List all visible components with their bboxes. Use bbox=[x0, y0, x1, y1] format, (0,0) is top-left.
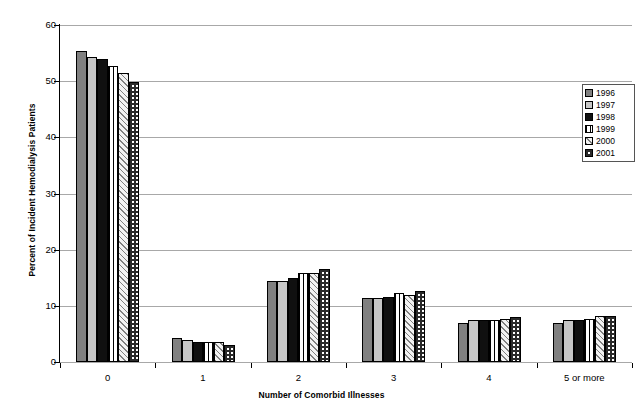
bar-1998-cat-4[interactable] bbox=[479, 320, 490, 362]
legend-item-2000[interactable]: 2000 bbox=[585, 135, 632, 147]
legend-item-1996[interactable]: 1996 bbox=[585, 87, 632, 99]
x-axis-tick-mark bbox=[441, 363, 442, 368]
y-axis-tick-label: 60 bbox=[32, 20, 56, 30]
x-axis-category-label: 2 bbox=[251, 372, 346, 383]
legend-label: 2000 bbox=[596, 137, 615, 146]
bar-group bbox=[458, 25, 521, 362]
x-axis-tick-mark bbox=[251, 363, 252, 368]
legend-label: 2001 bbox=[596, 149, 615, 158]
bar-1998-cat-1[interactable] bbox=[193, 342, 204, 362]
bar-1996-cat-0[interactable] bbox=[76, 51, 87, 362]
bar-2001-cat-0[interactable] bbox=[129, 82, 140, 362]
bar-1996-cat-5[interactable] bbox=[553, 323, 564, 362]
x-axis-category-label: 3 bbox=[346, 372, 441, 383]
legend-item-2001[interactable]: 2001 bbox=[585, 147, 632, 159]
y-axis-tick-mark bbox=[54, 81, 60, 82]
legend-swatch-icon bbox=[585, 137, 593, 145]
bar-1998-cat-2[interactable] bbox=[288, 278, 299, 362]
legend-label: 1998 bbox=[596, 113, 615, 122]
y-axis-tick-mark bbox=[54, 25, 60, 26]
bar-2001-cat-4[interactable] bbox=[510, 317, 521, 362]
bar-1997-cat-4[interactable] bbox=[468, 320, 479, 362]
bar-2000-cat-4[interactable] bbox=[500, 319, 511, 362]
gridline bbox=[60, 306, 632, 307]
bar-1999-cat-0[interactable] bbox=[108, 66, 119, 362]
bar-2000-cat-0[interactable] bbox=[118, 73, 129, 362]
bar-2001-cat-5[interactable] bbox=[605, 316, 616, 362]
y-axis-tick-label: 0 bbox=[32, 357, 56, 367]
gridline bbox=[60, 250, 632, 251]
legend-swatch-icon bbox=[585, 89, 593, 97]
bar-1998-cat-3[interactable] bbox=[383, 297, 394, 362]
plot-area bbox=[60, 25, 632, 362]
y-axis-tick-label: 20 bbox=[32, 245, 56, 255]
bar-1997-cat-3[interactable] bbox=[373, 298, 384, 362]
bar-2000-cat-2[interactable] bbox=[309, 273, 320, 362]
x-axis-category-label: 1 bbox=[155, 372, 250, 383]
legend-label: 1997 bbox=[596, 101, 615, 110]
bar-2001-cat-3[interactable] bbox=[415, 291, 426, 362]
x-axis-tick-mark bbox=[537, 363, 538, 368]
y-axis-tick-mark bbox=[54, 250, 60, 251]
x-axis-title: Number of Comorbid Illnesses bbox=[0, 390, 643, 400]
y-axis-tick-label: 40 bbox=[32, 132, 56, 142]
y-axis-tick-mark bbox=[54, 306, 60, 307]
bar-1998-cat-0[interactable] bbox=[97, 59, 108, 362]
y-axis-tick-labels: 0102030405060 bbox=[22, 0, 56, 411]
legend-swatch-icon bbox=[585, 125, 593, 133]
x-axis-tick-mark bbox=[632, 363, 633, 368]
gridline bbox=[60, 137, 632, 138]
legend-label: 1999 bbox=[596, 125, 615, 134]
x-axis-tick-mark bbox=[60, 363, 61, 368]
legend-swatch-icon bbox=[585, 113, 593, 121]
bar-group bbox=[76, 25, 139, 362]
bar-1999-cat-1[interactable] bbox=[203, 342, 214, 362]
bar-1996-cat-1[interactable] bbox=[172, 338, 183, 362]
bar-2001-cat-2[interactable] bbox=[319, 269, 330, 362]
bar-1996-cat-4[interactable] bbox=[458, 323, 469, 362]
bar-2000-cat-5[interactable] bbox=[595, 316, 606, 362]
legend-item-1998[interactable]: 1998 bbox=[585, 111, 632, 123]
bar-1996-cat-2[interactable] bbox=[267, 281, 278, 362]
bar-1997-cat-1[interactable] bbox=[182, 340, 193, 362]
x-axis-category-label: 0 bbox=[60, 372, 155, 383]
bar-1999-cat-3[interactable] bbox=[394, 293, 405, 362]
bar-group bbox=[172, 25, 235, 362]
gridline bbox=[60, 194, 632, 195]
gridline bbox=[60, 25, 632, 26]
bar-group bbox=[267, 25, 330, 362]
bar-1997-cat-5[interactable] bbox=[563, 320, 574, 362]
bar-1999-cat-2[interactable] bbox=[298, 273, 309, 362]
legend-item-1997[interactable]: 1997 bbox=[585, 99, 632, 111]
chart-legend: 199619971998199920002001 bbox=[582, 84, 635, 162]
x-axis-tick-mark bbox=[346, 363, 347, 368]
bar-1998-cat-5[interactable] bbox=[574, 320, 585, 362]
bar-group bbox=[553, 25, 616, 362]
x-axis-category-label: 5 or more bbox=[537, 372, 632, 383]
x-axis-tick-mark bbox=[155, 363, 156, 368]
y-axis-tick-mark bbox=[54, 194, 60, 195]
bar-2000-cat-1[interactable] bbox=[214, 342, 225, 362]
bar-2001-cat-1[interactable] bbox=[224, 345, 235, 362]
x-axis-category-label: 4 bbox=[441, 372, 536, 383]
bar-1997-cat-0[interactable] bbox=[87, 57, 98, 362]
legend-swatch-icon bbox=[585, 149, 593, 157]
bar-1997-cat-2[interactable] bbox=[277, 281, 288, 362]
bar-2000-cat-3[interactable] bbox=[404, 295, 415, 362]
bar-chart: Percent of Incident Hemodialysis Patient… bbox=[0, 0, 643, 411]
y-axis-tick-label: 10 bbox=[32, 301, 56, 311]
y-axis-tick-label: 30 bbox=[32, 189, 56, 199]
bar-1996-cat-3[interactable] bbox=[362, 298, 373, 362]
bar-group bbox=[362, 25, 425, 362]
legend-swatch-icon bbox=[585, 101, 593, 109]
y-axis-tick-label: 50 bbox=[32, 76, 56, 86]
legend-label: 1996 bbox=[596, 89, 615, 98]
bar-1999-cat-5[interactable] bbox=[584, 319, 595, 362]
y-axis-tick-mark bbox=[54, 137, 60, 138]
legend-item-1999[interactable]: 1999 bbox=[585, 123, 632, 135]
gridline bbox=[60, 81, 632, 82]
bar-1999-cat-4[interactable] bbox=[489, 320, 500, 362]
